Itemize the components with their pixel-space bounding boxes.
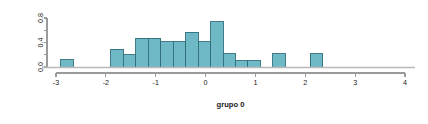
y-axis: 0.00.40.8: [36, 13, 47, 72]
x-axis-tick-label: 4: [403, 78, 407, 87]
histogram-bars: [61, 22, 323, 67]
histogram-bar: [223, 54, 235, 67]
x-axis-tick-label: -2: [103, 78, 109, 87]
histogram-bar: [136, 38, 148, 67]
y-axis-tick-label: 0.4: [36, 38, 45, 48]
histogram-chart: 0.00.40.8-3-2-101234grupo 0: [0, 0, 428, 124]
histogram-bar: [310, 54, 322, 67]
y-axis-tick-label: 0.8: [36, 13, 45, 23]
x-axis-tick-label: 1: [253, 78, 257, 87]
x-axis-tick-label: 2: [303, 78, 307, 87]
histogram-bar: [161, 42, 173, 67]
x-axis: -3-2-101234: [53, 73, 407, 87]
x-axis-tick-label: -1: [153, 78, 159, 87]
x-axis-title-group: grupo 0: [217, 100, 245, 109]
histogram-bar: [148, 38, 160, 67]
x-axis-tick-label: -3: [53, 78, 59, 87]
histogram-bar: [111, 49, 123, 67]
histogram-bar: [235, 61, 247, 67]
x-axis-tick-label: 0: [204, 78, 208, 87]
histogram-bar: [186, 32, 198, 67]
histogram-bar: [198, 42, 210, 67]
histogram-plot-panel: 0.00.40.8-3-2-101234grupo 0: [0, 0, 428, 124]
histogram-bar: [248, 61, 260, 67]
histogram-bar: [173, 42, 185, 67]
histogram-bar: [273, 54, 285, 67]
histogram-bar: [61, 60, 73, 67]
histogram-bar: [123, 55, 135, 67]
histogram-bar: [211, 22, 223, 67]
x-axis-title: grupo 0: [217, 100, 245, 109]
x-axis-tick-label: 3: [353, 78, 357, 87]
